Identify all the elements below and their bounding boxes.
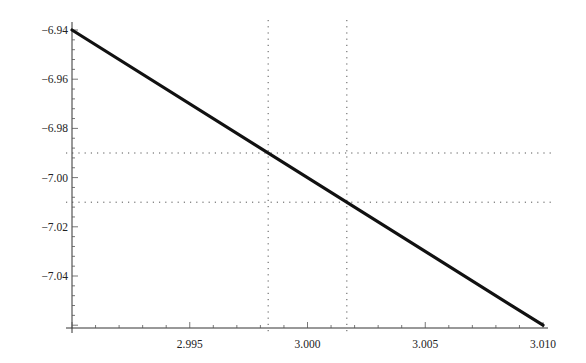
y-tick-label: −6.98 [41, 122, 68, 134]
y-tick-label: −7.00 [41, 172, 68, 184]
y-tick-label: −7.04 [41, 270, 68, 282]
x-tick-label: 3.005 [412, 338, 438, 350]
x-ticks: 2.9953.0003.0053.010 [72, 322, 556, 350]
y-ticks: −6.94−6.96−6.98−7.00−7.02−7.04 [41, 24, 78, 325]
line-chart: 2.9953.0003.0053.010 −6.94−6.96−6.98−7.0… [0, 0, 586, 363]
series-line-0 [72, 30, 543, 325]
x-tick-label: 3.000 [295, 338, 321, 350]
y-tick-label: −6.96 [41, 73, 68, 85]
x-tick-label: 3.010 [530, 338, 556, 350]
y-tick-label: −7.02 [41, 221, 68, 233]
axes: 2.9953.0003.0053.010 −6.94−6.96−6.98−7.0… [41, 22, 556, 350]
x-tick-label: 2.995 [177, 338, 203, 350]
data-series [72, 30, 543, 325]
y-tick-label: −6.94 [41, 24, 68, 36]
